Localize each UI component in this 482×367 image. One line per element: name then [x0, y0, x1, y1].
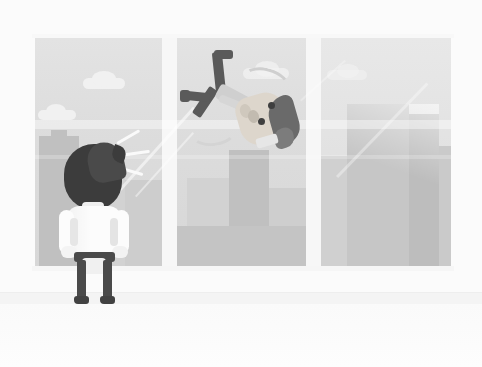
window-frame-top: [32, 34, 454, 38]
window-panel-right: [321, 38, 451, 266]
office-room: [0, 0, 482, 367]
mullion-right: [306, 35, 321, 269]
right-arm-gap: [110, 218, 118, 246]
office-floor: [0, 292, 482, 367]
faller-right-shoe: [214, 50, 233, 59]
falling-person: [182, 52, 302, 167]
illustration-canvas: [0, 0, 482, 367]
cloud-lower-left-puff: [46, 104, 66, 118]
left-arm-gap: [70, 218, 78, 246]
faller-left-shoe: [180, 90, 190, 102]
businessman-from-behind: [60, 140, 165, 300]
motion-arc-lower-icon: [189, 116, 238, 149]
right-shoe: [100, 296, 115, 304]
building-right-far: [439, 146, 451, 266]
faller-left-leg: [192, 86, 218, 118]
cloud-upper-left-puff: [92, 71, 116, 87]
faller-eye-left: [268, 102, 275, 109]
left-shoe: [74, 296, 89, 304]
building-mid-base: [177, 226, 306, 266]
